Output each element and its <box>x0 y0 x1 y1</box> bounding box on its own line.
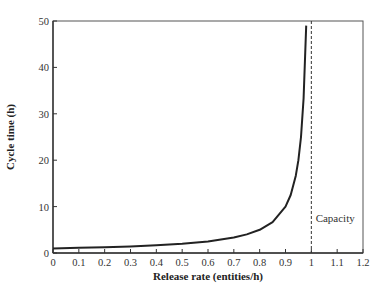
y-tick-label: 30 <box>39 109 50 120</box>
x-axis-title: Release rate (entities/h) <box>153 270 263 283</box>
cycle-time-curve <box>53 26 306 249</box>
y-axis-tick-labels: 01020304050 <box>39 16 50 259</box>
cycle-time-chart: 00.10.20.30.40.50.60.70.80.911.11.2 0102… <box>0 0 387 293</box>
x-axis-tick-labels: 00.10.20.30.40.50.60.70.80.911.11.2 <box>50 257 369 268</box>
y-tick-label: 10 <box>39 202 50 213</box>
capacity-label: Capacity <box>316 212 356 224</box>
x-tick-label: 1 <box>309 257 314 268</box>
y-tick-label: 40 <box>39 62 50 73</box>
y-tick-label: 50 <box>39 16 50 27</box>
x-tick-label: 0.8 <box>253 257 266 268</box>
x-tick-label: 1.1 <box>331 257 344 268</box>
x-tick-label: 0.9 <box>279 257 292 268</box>
x-tick-label: 1.2 <box>356 257 369 268</box>
y-tick-label: 0 <box>44 248 49 259</box>
x-tick-label: 0.5 <box>176 257 189 268</box>
x-tick-label: 0.4 <box>150 257 164 268</box>
x-tick-label: 0 <box>50 257 55 268</box>
y-tick-label: 20 <box>39 155 50 166</box>
y-axis-title: Cycle time (h) <box>4 104 17 170</box>
x-tick-label: 0.6 <box>201 257 214 268</box>
x-tick-label: 0.7 <box>227 257 240 268</box>
x-tick-label: 0.1 <box>72 257 85 268</box>
x-tick-label: 0.3 <box>124 257 137 268</box>
x-tick-label: 0.2 <box>98 257 111 268</box>
